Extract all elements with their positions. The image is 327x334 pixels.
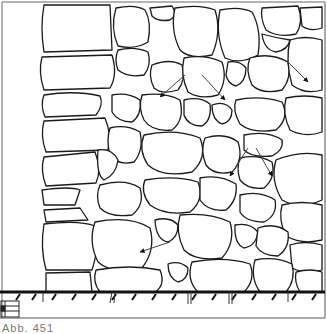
scale-box — [1, 301, 19, 317]
stones — [40, 5, 322, 292]
figure-caption: Abb. 451 — [2, 322, 54, 334]
root-marks — [43, 292, 288, 304]
ground-hatching — [16, 294, 316, 300]
